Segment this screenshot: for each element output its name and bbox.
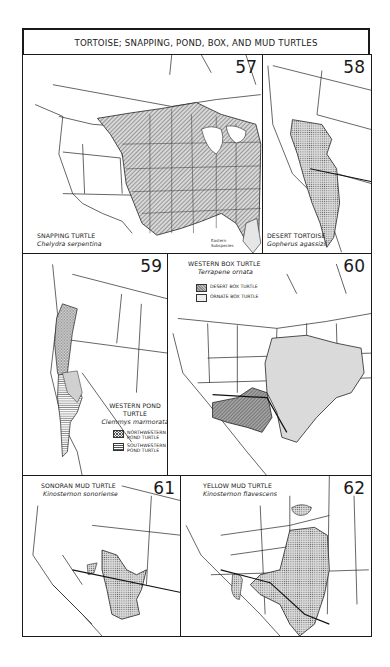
legend-item: NORTHWESTERN POND TURTLE xyxy=(113,430,169,441)
scientific-name: Kinosternon sonoriense xyxy=(41,490,118,498)
map-panel-59: 59 WESTERN POND TURTLE Clemmys marmorata… xyxy=(22,253,169,477)
map-number: 61 xyxy=(153,478,175,498)
legend-item: DESERT BOX TURTLE xyxy=(196,284,276,292)
legend-item: SOUTHWESTERN POND TURTLE xyxy=(113,443,169,454)
common-name: YELLOW MUD TURTLE xyxy=(203,482,277,490)
common-name: SONORAN MUD TURTLE xyxy=(41,482,118,490)
crosshatch-swatch-icon xyxy=(113,430,124,438)
map-number: 60 xyxy=(343,256,365,276)
yellow-mud-turtle-range-map xyxy=(181,476,371,636)
map-panel-57: 57 SNAPPING TURTLE Chelydra serpentina E… xyxy=(22,54,264,255)
scientific-name: Kinosternon flavescens xyxy=(203,490,277,498)
scientific-name: Gopherus agassizii xyxy=(267,240,327,248)
dots-swatch-icon xyxy=(196,294,207,302)
scientific-name: Chelydra serpentina xyxy=(37,240,102,248)
sonoran-mud-turtle-range-map xyxy=(23,476,181,636)
map-plate: TORTOISE; SNAPPING, POND, BOX, AND MUD T… xyxy=(22,28,370,635)
species-label: WESTERN BOX TURTLE Terrapene ornata xyxy=(188,260,260,276)
species-label: WESTERN POND TURTLE Clemmys marmorata xyxy=(101,402,169,425)
map-number: 62 xyxy=(343,478,365,498)
map-panel-58: 58 DESERT TORTOISE Gopherus agassizii xyxy=(262,54,372,255)
common-name: SNAPPING TURTLE xyxy=(37,232,102,240)
species-label: SNAPPING TURTLE Chelydra serpentina xyxy=(37,232,102,248)
lines-swatch-icon xyxy=(113,443,124,451)
snapping-turtle-range-map xyxy=(23,55,263,254)
common-name: DESERT TORTOISE xyxy=(267,232,327,240)
species-label: YELLOW MUD TURTLE Kinosternon flavescens xyxy=(203,482,277,498)
map-legend: DESERT BOX TURTLE ORNATE BOX TURTLE xyxy=(196,282,276,302)
desert-tortoise-range-map xyxy=(263,55,371,254)
map-panel-62: 62 YELLOW MUD TURTLE Kinosternon flavesc… xyxy=(180,475,372,637)
species-label: SONORAN MUD TURTLE Kinosternon sonoriens… xyxy=(41,482,118,498)
common-name: WESTERN POND TURTLE xyxy=(101,402,169,418)
map-legend: NORTHWESTERN POND TURTLE SOUTHWESTERN PO… xyxy=(113,428,169,453)
species-label: DESERT TORTOISE Gopherus agassizii xyxy=(267,232,327,248)
map-panel-61: 61 SONORAN MUD TURTLE Kinosternon sonori… xyxy=(22,475,182,637)
legend-item: ORNATE BOX TURTLE xyxy=(196,294,276,302)
map-panel-60: 60 WESTERN BOX TURTLE Terrapene ornata D… xyxy=(167,253,372,477)
map-number: 58 xyxy=(343,57,365,77)
scientific-name: Terrapene ornata xyxy=(188,268,260,276)
dark-hatch-swatch-icon xyxy=(196,284,207,292)
map-number: 57 xyxy=(235,57,257,77)
subspecies-annotation: Eastern Subspecies xyxy=(211,239,241,249)
map-number: 59 xyxy=(140,256,162,276)
common-name: WESTERN BOX TURTLE xyxy=(188,260,260,268)
scientific-name: Clemmys marmorata xyxy=(101,418,169,426)
